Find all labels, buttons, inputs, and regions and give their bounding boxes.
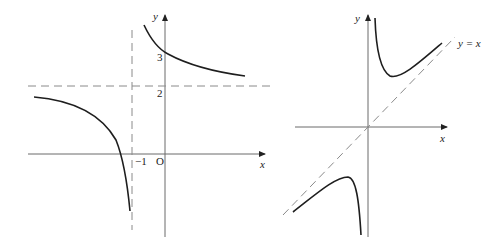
left-y-label: y <box>152 10 158 22</box>
right-y-label: y <box>354 12 360 24</box>
right-graph: y x y = x <box>283 12 481 237</box>
left-x-label: x <box>259 158 265 170</box>
right-upper-branch <box>375 18 442 77</box>
tick-label-2: 2 <box>157 87 163 99</box>
tick-label-3: 3 <box>157 51 163 63</box>
asymptote-label-y-equals-x: y = x <box>457 37 481 49</box>
origin-label: O <box>156 155 164 167</box>
diagram-canvas: y x 3 2 −1 O y x y = x <box>0 0 490 249</box>
right-x-label: x <box>439 132 445 144</box>
right-lower-branch <box>293 177 361 235</box>
right-diagonal-asymptote <box>283 37 455 215</box>
tick-label-neg1: −1 <box>135 155 147 167</box>
left-graph: y x 3 2 −1 O <box>28 10 272 237</box>
